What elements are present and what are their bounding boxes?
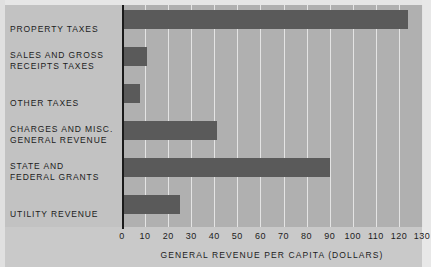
x-tick-label-130: 130 <box>414 231 431 241</box>
bar <box>122 84 140 103</box>
x-tick-label-60: 60 <box>255 231 266 241</box>
gridline-130 <box>422 5 423 227</box>
x-tick-label-20: 20 <box>163 231 174 241</box>
gridline-40 <box>214 5 215 227</box>
category-label: OTHER TAXES <box>10 98 79 109</box>
bar <box>122 10 408 29</box>
figure-right-margin <box>422 0 431 267</box>
x-tick-label-0: 0 <box>119 231 125 241</box>
gridline-60 <box>260 5 261 227</box>
x-tick-label-100: 100 <box>345 231 362 241</box>
y-axis-line <box>122 5 124 229</box>
gridline-50 <box>237 5 238 227</box>
gridline-110 <box>376 5 377 227</box>
gridline-80 <box>307 5 308 227</box>
gridline-10 <box>145 5 146 227</box>
x-tick-label-70: 70 <box>278 231 289 241</box>
gridline-100 <box>353 5 354 227</box>
gridline-70 <box>284 5 285 227</box>
x-tick-label-10: 10 <box>140 231 151 241</box>
gridline-90 <box>330 5 331 227</box>
x-tick-label-80: 80 <box>301 231 312 241</box>
x-axis-title: GENERAL REVENUE PER CAPITA (DOLLARS) <box>122 250 422 260</box>
x-tick-label-40: 40 <box>209 231 220 241</box>
bar-chart-figure: PROPERTY TAXESSALES AND GROSS RECEIPTS T… <box>0 0 431 267</box>
x-tick-label-120: 120 <box>391 231 408 241</box>
plot-area <box>122 5 422 227</box>
category-label: STATE AND FEDERAL GRANTS <box>10 161 99 183</box>
bar <box>122 195 180 214</box>
category-label: PROPERTY TAXES <box>10 24 99 35</box>
category-label: UTILITY REVENUE <box>10 209 98 220</box>
bar <box>122 121 217 140</box>
bar <box>122 47 147 66</box>
x-tick-label-30: 30 <box>186 231 197 241</box>
x-tick-label-90: 90 <box>324 231 335 241</box>
gridline-120 <box>399 5 400 227</box>
gridline-20 <box>168 5 169 227</box>
bar <box>122 158 330 177</box>
x-tick-label-110: 110 <box>368 231 384 241</box>
category-label: CHARGES AND MISC. GENERAL REVENUE <box>10 124 113 146</box>
x-tick-label-50: 50 <box>232 231 243 241</box>
gridline-30 <box>191 5 192 227</box>
category-label-column <box>5 5 122 227</box>
category-label: SALES AND GROSS RECEIPTS TAXES <box>10 50 104 72</box>
